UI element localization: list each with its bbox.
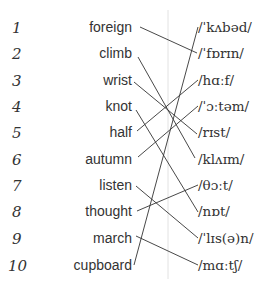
match-line-7 — [136, 186, 198, 238]
item-number: 3 — [12, 72, 42, 90]
ipa-item: /ˈɔːtəm/ — [198, 97, 249, 115]
item-number: 8 — [12, 203, 42, 221]
item-number: 6 — [12, 151, 42, 169]
match-line-9 — [136, 236, 198, 265]
item-number: 1 — [12, 19, 42, 37]
word-item: thought — [85, 202, 132, 220]
word-item: wrist — [103, 71, 132, 89]
match-line-3 — [134, 82, 197, 134]
ipa-item: /klʌɪm/ — [198, 150, 244, 168]
word-item: listen — [99, 176, 132, 194]
item-number: 4 — [12, 98, 42, 116]
ipa-item: /ˈfɒrɪn/ — [198, 44, 244, 62]
ipa-item: /mɑːtʃ/ — [198, 256, 242, 274]
word-item: climb — [99, 44, 132, 62]
word-item: foreign — [89, 18, 132, 36]
match-line-4 — [136, 110, 198, 212]
ipa-item: /rɪst/ — [198, 123, 230, 141]
word-item: autumn — [85, 150, 132, 168]
item-number: 9 — [12, 230, 42, 248]
ipa-item: /hɑːf/ — [198, 71, 234, 89]
item-number: 7 — [12, 177, 42, 195]
word-item: half — [109, 123, 132, 141]
item-number: 2 — [12, 45, 42, 63]
word-item: knot — [106, 97, 132, 115]
item-number: 10 — [8, 257, 38, 275]
ipa-item: /ˈkʌbəd/ — [198, 18, 252, 36]
ipa-item: /nɒt/ — [198, 202, 230, 220]
ipa-item: /ˈlɪs(ə)n/ — [198, 229, 254, 247]
ipa-item: /θɔːt/ — [198, 176, 233, 194]
word-item: march — [93, 229, 132, 247]
word-item: cupboard — [74, 256, 132, 274]
item-number: 5 — [12, 124, 42, 142]
